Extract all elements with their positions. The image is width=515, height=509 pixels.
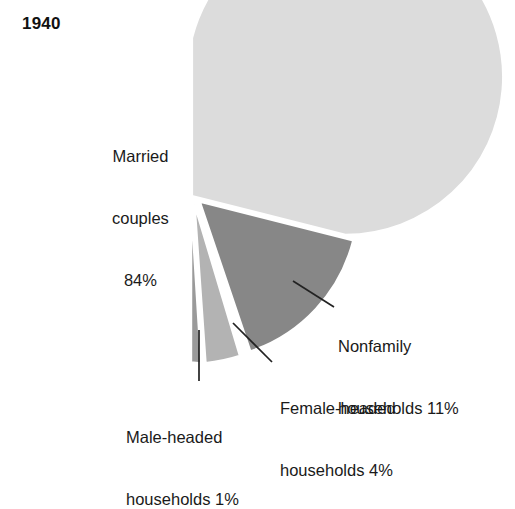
pie-label-female-headed-households-line1: Female-headed bbox=[280, 398, 396, 419]
pie-label-married-couples-value: 84% bbox=[112, 270, 169, 291]
pie-label-female-headed-households-line2: households 4% bbox=[280, 460, 396, 481]
pie-label-male-headed-households-line1: Male-headed bbox=[126, 427, 239, 448]
pie-label-married-couples-line2: couples bbox=[112, 208, 169, 229]
pie-label-nonfamily-households-line1: Nonfamily bbox=[338, 336, 459, 357]
pie-label-female-headed-households: Female-headed households 4% bbox=[280, 356, 396, 509]
pie-slice-married-couples bbox=[192, 0, 503, 235]
pie-label-male-headed-households-line2: households 1% bbox=[126, 489, 239, 509]
pie-label-married-couples: Married couples 84% bbox=[112, 104, 169, 333]
pie-label-male-headed-households: Male-headed households 1% bbox=[126, 385, 239, 509]
pie-label-married-couples-line1: Married bbox=[112, 146, 169, 167]
